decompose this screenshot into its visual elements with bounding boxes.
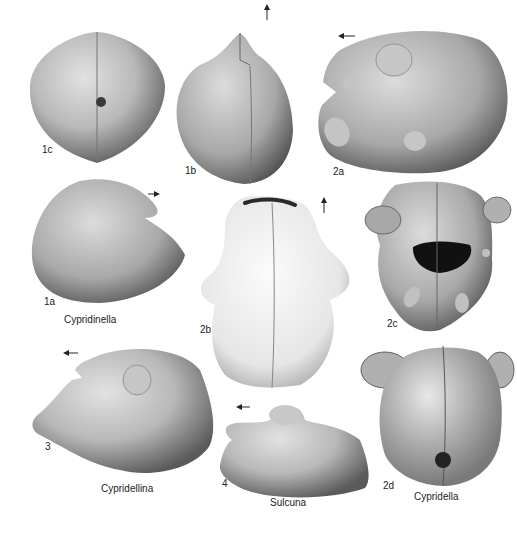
genus-sulcuna: Sulcuna (270, 498, 306, 508)
specimen-1b (177, 4, 293, 184)
label-2d: 2d (383, 481, 394, 491)
label-1c: 1c (42, 145, 53, 155)
specimen-2b (201, 196, 349, 388)
label-2a: 2a (333, 167, 344, 177)
label-4: 4 (222, 479, 228, 489)
genus-cypridella: Cypridella (414, 492, 458, 502)
specimen-4 (220, 404, 369, 497)
label-1b: 1b (185, 166, 196, 176)
label-3: 3 (45, 442, 51, 452)
label-2c: 2c (387, 319, 398, 329)
specimen-1a (32, 179, 185, 303)
adductor-scar (96, 97, 106, 107)
genus-cypridinella: Cypridinella (64, 315, 116, 325)
specimen-3 (33, 349, 214, 473)
label-2b: 2b (200, 325, 211, 335)
genus-cypridellina: Cypridellina (101, 484, 153, 494)
adductor-scar (435, 452, 451, 468)
fossil-plate (0, 0, 517, 538)
label-1a: 1a (44, 297, 55, 307)
specimen-2d (361, 346, 514, 486)
specimen-2c (365, 182, 511, 332)
specimen-2a (318, 31, 507, 173)
